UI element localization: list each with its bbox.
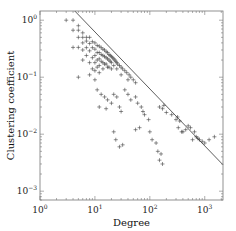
data-point xyxy=(99,92,103,96)
data-point xyxy=(207,138,211,142)
data-point xyxy=(81,58,85,62)
data-point xyxy=(119,110,123,114)
data-point xyxy=(157,105,161,109)
data-point xyxy=(81,35,85,39)
data-point xyxy=(157,158,161,162)
data-point xyxy=(150,138,154,142)
data-point xyxy=(90,56,94,60)
data-point xyxy=(184,128,188,132)
data-point xyxy=(93,78,97,82)
data-point xyxy=(164,111,168,115)
axis-ticks xyxy=(40,11,223,200)
data-point xyxy=(106,98,110,102)
data-point xyxy=(84,46,88,50)
data-point xyxy=(136,101,140,105)
data-point xyxy=(117,145,121,149)
data-point xyxy=(125,71,129,75)
data-point xyxy=(212,135,216,139)
data-point xyxy=(84,54,88,58)
data-point xyxy=(156,149,160,153)
data-point xyxy=(103,95,107,99)
data-point xyxy=(88,61,92,65)
x-axis-tick-labels: 100101102103 xyxy=(32,203,212,215)
x-tick-label: 103 xyxy=(197,203,212,215)
data-point xyxy=(191,138,195,142)
data-point xyxy=(147,118,151,122)
data-point xyxy=(139,105,143,109)
data-point xyxy=(93,61,97,65)
data-point xyxy=(93,69,97,73)
data-point xyxy=(76,35,80,39)
data-point xyxy=(138,126,142,130)
data-point xyxy=(64,18,68,22)
data-point xyxy=(97,51,101,55)
data-point xyxy=(93,54,97,58)
data-point xyxy=(129,98,133,102)
data-point xyxy=(115,67,119,71)
y-tick-label: 10−1 xyxy=(17,70,37,82)
data-point xyxy=(76,75,80,79)
data-point xyxy=(134,95,138,99)
data-point xyxy=(121,143,125,147)
data-point xyxy=(126,92,130,96)
data-point xyxy=(112,92,116,96)
x-tick-label: 102 xyxy=(142,203,157,215)
data-point xyxy=(97,105,101,109)
data-point xyxy=(109,67,113,71)
data-point xyxy=(88,73,92,77)
data-point xyxy=(109,101,113,105)
scatter-chart: 100101102103 10010−110−210−3 Degree Clus… xyxy=(0,0,236,231)
data-point xyxy=(134,81,138,85)
data-point xyxy=(90,67,94,71)
x-axis-label: Degree xyxy=(113,217,150,228)
data-point xyxy=(112,64,116,68)
data-point xyxy=(117,105,121,109)
x-tick-label: 101 xyxy=(87,203,102,215)
data-point xyxy=(71,45,75,49)
data-point xyxy=(148,130,152,134)
scatter-points xyxy=(64,18,216,166)
y-tick-label: 100 xyxy=(22,13,37,25)
data-point xyxy=(97,71,101,75)
data-point xyxy=(123,69,127,73)
data-point xyxy=(81,48,85,52)
data-point xyxy=(123,88,127,92)
data-point xyxy=(154,141,158,145)
data-point xyxy=(71,28,75,32)
data-point xyxy=(159,152,163,156)
data-point xyxy=(114,138,118,142)
data-point xyxy=(131,78,135,82)
data-point xyxy=(88,42,92,46)
data-point xyxy=(81,31,85,35)
data-point xyxy=(76,24,80,28)
data-point xyxy=(134,128,138,132)
data-point xyxy=(95,88,99,92)
y-tick-label: 10−2 xyxy=(17,127,37,139)
data-point xyxy=(176,126,180,130)
y-axis-label: Clustering coefficient xyxy=(5,51,16,160)
data-point xyxy=(88,35,92,39)
y-axis-tick-labels: 10010−110−210−3 xyxy=(17,13,37,196)
plot-frame xyxy=(40,11,223,200)
data-point xyxy=(88,49,92,53)
x-tick-label: 100 xyxy=(32,203,47,215)
data-point xyxy=(99,53,103,57)
data-point xyxy=(76,28,80,32)
data-point xyxy=(115,95,119,99)
data-point xyxy=(101,67,105,71)
data-point xyxy=(112,130,116,134)
data-point xyxy=(84,39,88,43)
data-point xyxy=(119,73,123,77)
data-point xyxy=(160,162,164,166)
data-point xyxy=(76,45,80,49)
data-point xyxy=(71,18,75,22)
data-point xyxy=(95,43,99,47)
data-point xyxy=(104,107,108,111)
y-tick-label: 10−3 xyxy=(17,184,37,196)
data-point xyxy=(81,41,85,45)
data-point xyxy=(126,78,130,82)
